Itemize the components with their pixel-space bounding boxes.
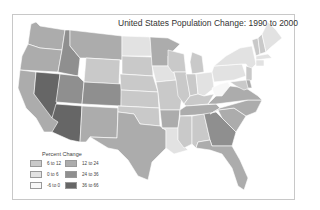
legend-swatch (30, 160, 42, 167)
legend-label: 6 to 12 (47, 161, 61, 166)
legend-swatch (65, 171, 77, 178)
legend-swatch (30, 171, 42, 178)
state-nd (122, 36, 152, 56)
map-title: United States Population Change: 1990 to… (118, 18, 298, 28)
state-ar (160, 110, 180, 128)
legend-swatch (30, 182, 42, 189)
legend-item-12-to-24: 12 to 24 (65, 159, 99, 167)
state-sd (122, 56, 153, 76)
legend-swatch (65, 160, 77, 167)
state-mt (70, 30, 122, 60)
legend-label: -6 to 0 (47, 183, 60, 188)
legend-swatch (65, 182, 77, 189)
legend: Percent Change 6 to 12 0 to 6 -6 to 0 12… (30, 151, 110, 195)
state-wy (84, 58, 120, 84)
legend-item-0-to-6: 0 to 6 (30, 170, 59, 178)
state-ut (56, 74, 84, 104)
state-ne (120, 74, 158, 92)
state-ct (256, 60, 264, 66)
state-pa (212, 64, 246, 82)
state-nm (80, 106, 118, 142)
state-co (82, 82, 122, 106)
state-fl (196, 140, 248, 190)
legend-label: 12 to 24 (82, 161, 99, 166)
legend-item-36-to-66: 36 to 66 (65, 181, 99, 189)
legend-title: Percent Change (42, 151, 82, 157)
state-ks (121, 90, 159, 108)
state-wi (168, 50, 186, 72)
state-mi (190, 52, 204, 74)
legend-item-24-to-36: 24 to 36 (65, 170, 99, 178)
state-oh (196, 72, 214, 96)
legend-label: 24 to 36 (82, 172, 99, 177)
legend-item-neg6-to-0: -6 to 0 (30, 181, 60, 189)
legend-item-6-to-12: 6 to 12 (30, 159, 61, 167)
legend-label: 36 to 66 (82, 183, 99, 188)
state-ms (178, 116, 192, 148)
legend-label: 0 to 6 (47, 172, 59, 177)
state-nj (246, 66, 252, 82)
